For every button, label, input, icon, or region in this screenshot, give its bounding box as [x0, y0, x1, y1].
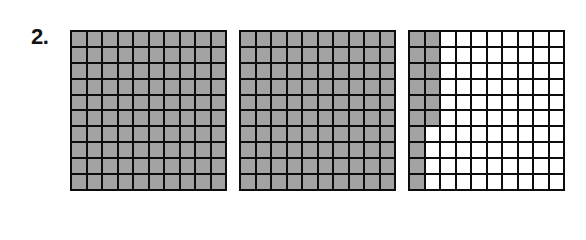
shaded-cell — [212, 48, 226, 62]
empty-cell — [457, 80, 471, 94]
shaded-cell — [381, 159, 395, 173]
shaded-cell — [288, 64, 302, 78]
shaded-cell — [103, 64, 117, 78]
shaded-cell — [410, 127, 424, 141]
shaded-cell — [426, 64, 440, 78]
shaded-cell — [410, 96, 424, 110]
shaded-cell — [241, 175, 255, 189]
shaded-cell — [257, 175, 271, 189]
shaded-cell — [165, 96, 179, 110]
shaded-cell — [350, 127, 364, 141]
empty-cell — [488, 159, 502, 173]
shaded-cell — [319, 48, 333, 62]
shaded-cell — [272, 175, 286, 189]
shaded-cell — [303, 32, 317, 46]
empty-cell — [519, 111, 533, 125]
shaded-cell — [350, 48, 364, 62]
shaded-cell — [288, 111, 302, 125]
empty-cell — [550, 80, 564, 94]
shaded-cell — [410, 111, 424, 125]
empty-cell — [534, 143, 548, 157]
shaded-cell — [212, 159, 226, 173]
empty-cell — [472, 96, 486, 110]
empty-cell — [441, 96, 455, 110]
shaded-cell — [381, 48, 395, 62]
shaded-cell — [212, 175, 226, 189]
shaded-cell — [150, 32, 164, 46]
shaded-cell — [196, 48, 210, 62]
shaded-cell — [350, 159, 364, 173]
hundred-grid-1 — [70, 30, 227, 191]
shaded-cell — [334, 32, 348, 46]
empty-cell — [426, 159, 440, 173]
empty-cell — [503, 96, 517, 110]
shaded-cell — [165, 32, 179, 46]
shaded-cell — [257, 143, 271, 157]
shaded-cell — [103, 96, 117, 110]
shaded-cell — [272, 127, 286, 141]
shaded-cell — [350, 96, 364, 110]
shaded-cell — [181, 48, 195, 62]
empty-cell — [550, 96, 564, 110]
shaded-cell — [334, 80, 348, 94]
shaded-cell — [72, 80, 86, 94]
empty-cell — [441, 111, 455, 125]
shaded-cell — [181, 96, 195, 110]
shaded-cell — [334, 111, 348, 125]
shaded-cell — [410, 175, 424, 189]
shaded-cell — [134, 64, 148, 78]
empty-cell — [550, 48, 564, 62]
shaded-cell — [350, 80, 364, 94]
shaded-cell — [381, 127, 395, 141]
shaded-cell — [119, 175, 133, 189]
shaded-cell — [134, 48, 148, 62]
shaded-cell — [103, 127, 117, 141]
shaded-cell — [196, 96, 210, 110]
shaded-cell — [165, 159, 179, 173]
empty-cell — [457, 175, 471, 189]
empty-cell — [472, 175, 486, 189]
shaded-cell — [196, 111, 210, 125]
shaded-cell — [119, 127, 133, 141]
shaded-cell — [212, 127, 226, 141]
shaded-cell — [350, 111, 364, 125]
shaded-cell — [150, 175, 164, 189]
shaded-cell — [410, 159, 424, 173]
shaded-cell — [426, 111, 440, 125]
shaded-cell — [288, 32, 302, 46]
empty-cell — [472, 80, 486, 94]
shaded-cell — [150, 111, 164, 125]
empty-cell — [519, 159, 533, 173]
empty-cell — [534, 159, 548, 173]
shaded-cell — [88, 111, 102, 125]
shaded-cell — [181, 127, 195, 141]
shaded-cell — [365, 127, 379, 141]
empty-cell — [534, 127, 548, 141]
shaded-cell — [288, 143, 302, 157]
empty-cell — [426, 143, 440, 157]
empty-cell — [488, 48, 502, 62]
shaded-cell — [119, 159, 133, 173]
empty-cell — [503, 175, 517, 189]
shaded-cell — [119, 32, 133, 46]
shaded-cell — [88, 96, 102, 110]
shaded-cell — [72, 175, 86, 189]
shaded-cell — [88, 143, 102, 157]
shaded-cell — [134, 111, 148, 125]
shaded-cell — [381, 80, 395, 94]
shaded-cell — [241, 127, 255, 141]
empty-cell — [503, 48, 517, 62]
shaded-cell — [134, 159, 148, 173]
empty-cell — [457, 159, 471, 173]
shaded-cell — [103, 32, 117, 46]
shaded-cell — [303, 111, 317, 125]
shaded-cell — [350, 64, 364, 78]
shaded-cell — [119, 64, 133, 78]
empty-cell — [519, 175, 533, 189]
shaded-cell — [103, 143, 117, 157]
shaded-cell — [272, 143, 286, 157]
shaded-cell — [150, 48, 164, 62]
shaded-cell — [319, 127, 333, 141]
empty-cell — [457, 64, 471, 78]
shaded-cell — [426, 32, 440, 46]
